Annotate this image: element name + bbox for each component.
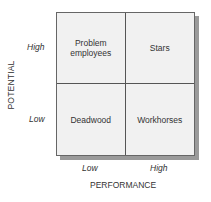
- quadrant-problem-employees: Problem employees: [57, 13, 126, 84]
- quadrant-label: Deadwood: [70, 115, 111, 125]
- x-tick-low: Low: [82, 163, 98, 173]
- y-axis-label: POTENTIAL: [6, 60, 16, 109]
- quadrant-label: Problem employees: [66, 38, 116, 58]
- x-tick-high: High: [150, 163, 167, 173]
- matrix-grid: Problem employees Stars Deadwood Workhor…: [56, 12, 195, 156]
- quadrant-deadwood: Deadwood: [57, 84, 126, 155]
- quadrant-workhorses: Workhorses: [126, 84, 195, 155]
- quadrant-label: Workhorses: [137, 115, 182, 125]
- x-axis-label: PERFORMANCE: [90, 180, 156, 190]
- quadrant-stars: Stars: [126, 13, 195, 84]
- y-tick-low: Low: [29, 114, 45, 124]
- y-tick-high: High: [27, 42, 44, 52]
- quadrant-label: Stars: [150, 43, 170, 53]
